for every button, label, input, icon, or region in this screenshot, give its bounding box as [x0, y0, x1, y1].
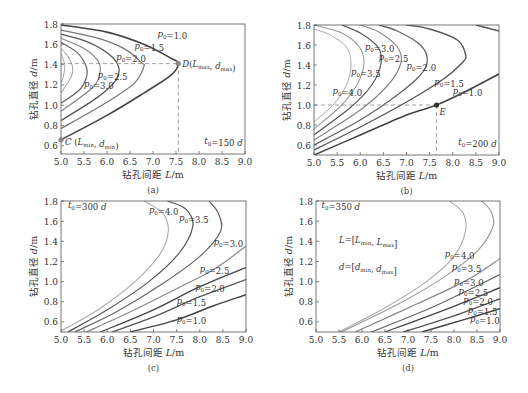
- y-tick-label: 0.6: [299, 317, 314, 327]
- y-tick-label: 1.4: [44, 237, 59, 247]
- x-tick-label: 5.0: [54, 157, 69, 167]
- x-axis-label: 钻孔间距 L/m: [377, 347, 439, 358]
- x-tick-label: 6.5: [123, 335, 138, 345]
- series-label: p0=4.0: [149, 205, 179, 217]
- y-tick-label: 1.8: [44, 197, 59, 207]
- series-label: p0=2.5: [200, 264, 230, 276]
- curve-p3.5: [61, 48, 73, 93]
- point-D: [176, 61, 181, 66]
- x-tick-label: 7.5: [169, 335, 184, 345]
- series-label: p0=1.0: [158, 29, 188, 41]
- x-axis-label: 钻孔间距 L/m: [376, 170, 438, 181]
- point-label-C: C (Lmin, dmin): [65, 137, 118, 151]
- x-tick-label: 8.5: [469, 158, 484, 168]
- curves: [61, 25, 178, 140]
- y-tick-label: 0.8: [44, 297, 59, 307]
- series-label: p0=1.5: [177, 296, 207, 308]
- series-label: p0=2.0: [195, 282, 225, 294]
- y-tick-label: 1.6: [297, 41, 312, 51]
- x-tick-label: 6.0: [100, 157, 115, 167]
- series-label: p0=1.5: [434, 77, 464, 89]
- y-tick-label: 1.6: [299, 217, 314, 227]
- y-tick-label: 1.2: [297, 81, 311, 91]
- y-tick-label: 1.0: [297, 101, 312, 111]
- range-annotation: d=[dmin, dmax]: [339, 262, 397, 276]
- x-tick-label: 5.0: [307, 158, 322, 168]
- curve-p4.0: [61, 201, 168, 331]
- time-annotation: t0=350 d: [322, 200, 361, 212]
- panel-caption: (a): [147, 185, 159, 195]
- y-tick-label: 1.8: [44, 20, 59, 30]
- y-tick-label: 1.4: [44, 60, 59, 70]
- y-tick-label: 1.2: [44, 80, 58, 90]
- x-tick-label: 5.5: [330, 158, 345, 168]
- point-E: [434, 102, 439, 107]
- x-tick-label: 6.5: [376, 158, 391, 168]
- series-label: p0=3.5: [452, 262, 482, 274]
- x-tick-label: 7.5: [422, 158, 437, 168]
- series-label: p0=3.0: [214, 237, 244, 249]
- x-tick-label: 7.0: [146, 157, 161, 167]
- y-tick-label: 1.0: [44, 277, 59, 287]
- x-tick-label: 5.5: [77, 335, 92, 345]
- x-tick-label: 8.0: [192, 157, 207, 167]
- point-C: [58, 137, 63, 142]
- x-tick-label: 7.0: [401, 335, 416, 345]
- y-axis-label: 钻孔直径 d/m: [283, 236, 294, 297]
- y-tick-label: 1.8: [299, 197, 314, 207]
- y-tick-label: 1.4: [299, 237, 314, 247]
- curve-p2.0: [314, 25, 427, 145]
- panel-caption: (c): [148, 363, 159, 373]
- x-tick-label: 9.0: [493, 335, 508, 345]
- curve-p3.0: [61, 42, 87, 103]
- contour-figure: 5.05.56.06.57.07.58.08.59.00.60.81.01.21…: [0, 0, 528, 393]
- x-tick-label: 5.0: [309, 335, 324, 345]
- x-tick-label: 7.5: [169, 157, 184, 167]
- x-tick-label: 7.0: [146, 335, 161, 345]
- point-label-D: D(Lmax, dmax): [181, 59, 235, 73]
- chart-panel-a: 5.05.56.06.57.07.58.08.59.00.60.81.01.21…: [28, 20, 252, 196]
- x-tick-label: 7.5: [424, 335, 439, 345]
- x-tick-label: 8.5: [470, 335, 485, 345]
- x-tick-label: 9.0: [238, 157, 253, 167]
- y-tick-label: 1.0: [299, 277, 314, 287]
- curve-p1.0: [61, 25, 178, 140]
- y-tick-label: 1.8: [297, 21, 312, 31]
- time-annotation: t0=300 d: [68, 200, 107, 212]
- x-tick-label: 5.5: [332, 335, 347, 345]
- chart-panel-d: 5.05.56.06.57.07.58.08.59.00.60.81.01.21…: [283, 197, 507, 374]
- y-tick-label: 0.6: [297, 141, 312, 151]
- y-axis-label: 钻孔直径 d/m: [28, 236, 39, 297]
- x-tick-label: 6.5: [378, 335, 393, 345]
- curve-p2.5: [61, 38, 100, 111]
- x-tick-label: 8.5: [216, 335, 231, 345]
- y-tick-label: 1.2: [44, 257, 58, 267]
- curve-p4.0: [314, 29, 351, 122]
- time-annotation: t0=200 d: [458, 137, 497, 149]
- range-annotation: L=[Lmin, Lmax]: [338, 235, 397, 249]
- y-tick-label: 0.8: [299, 297, 314, 307]
- x-tick-label: 8.0: [446, 158, 461, 168]
- x-tick-label: 6.5: [123, 157, 138, 167]
- y-tick-label: 1.4: [297, 61, 312, 71]
- y-tick-label: 0.8: [44, 121, 59, 131]
- x-tick-label: 6.0: [353, 158, 368, 168]
- y-tick-label: 1.6: [44, 217, 59, 227]
- panel-caption: (b): [400, 186, 412, 196]
- x-tick-label: 9.0: [239, 335, 254, 345]
- series-label: p0=3.5: [179, 213, 209, 225]
- chart-panel-b: 5.05.56.06.57.07.58.08.59.00.60.81.01.21…: [281, 21, 506, 197]
- series-label: p0=3.0: [84, 79, 114, 91]
- point-label-E: E: [439, 107, 447, 117]
- y-tick-label: 1.6: [44, 40, 59, 50]
- x-tick-label: 5.0: [54, 335, 69, 345]
- x-tick-label: 5.5: [77, 157, 92, 167]
- series-label: p0=3.5: [351, 67, 381, 79]
- y-tick-label: 0.8: [297, 121, 312, 131]
- curve-p4.0: [61, 55, 65, 83]
- x-tick-label: 7.0: [399, 158, 414, 168]
- series-label: p0=2.0: [407, 61, 437, 73]
- x-axis-label: 钻孔间距 L/m: [123, 347, 185, 358]
- series-label: p0=1.5: [135, 41, 165, 53]
- time-annotation: t0=150 d: [204, 136, 243, 148]
